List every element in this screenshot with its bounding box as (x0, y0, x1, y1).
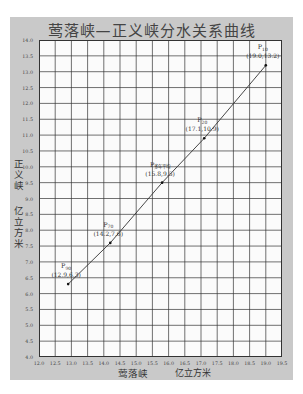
point-label: P20(17.1,10.9) (186, 116, 219, 132)
y-axis-title: 正义峡 亿立方米 (12, 158, 26, 249)
data-point (161, 181, 164, 184)
svg-text:P90: P90 (61, 262, 71, 271)
plot-area: P90(12.9,6.3)P70(14.2,7.6)P多年平均(15.8,9.5… (39, 40, 282, 357)
chart-title: 莺落峡—正义峡分水关系曲线 (0, 19, 303, 40)
point-coords: (15.8,9.5) (145, 170, 175, 177)
point-label: P90(12.9,6.3) (51, 262, 81, 278)
x-axis-title: 莺落峡 (118, 366, 148, 380)
x-axis-unit: 亿立方米 (175, 366, 211, 379)
point-coords: (14.2,7.6) (94, 230, 124, 237)
point-label: P10(19.0,13.2) (246, 43, 279, 59)
data-point (203, 137, 206, 140)
point-label: P多年平均(15.8,9.5) (145, 161, 175, 177)
plot-svg: P90(12.9,6.3)P70(14.2,7.6)P多年平均(15.8,9.5… (39, 40, 282, 357)
point-coords: (17.1,10.9) (186, 125, 219, 132)
y-axis-unit: 亿立方米 (14, 205, 25, 249)
point-coords: (19.0,13.2) (246, 52, 279, 59)
point-label: P70(14.2,7.6) (94, 221, 124, 237)
data-point (67, 283, 70, 286)
svg-text:P70: P70 (103, 221, 113, 230)
svg-text:P10: P10 (258, 43, 268, 52)
data-point (109, 242, 112, 245)
data-point (265, 64, 268, 67)
svg-text:P20: P20 (197, 116, 207, 125)
y-axis-label: 正义峡 (14, 158, 25, 191)
point-coords: (12.9,6.3) (51, 271, 81, 278)
